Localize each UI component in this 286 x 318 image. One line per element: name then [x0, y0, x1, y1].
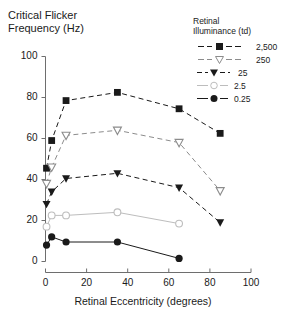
marker-filled-down-triangle — [175, 185, 183, 192]
marker-filled-square — [176, 105, 183, 112]
marker-open-circle — [63, 212, 70, 219]
series-025 — [43, 233, 183, 262]
x-axis-title: Retinal Eccentricity (degrees) — [0, 295, 286, 307]
marker-filled-circle — [48, 233, 55, 240]
marker-open-circle — [114, 209, 121, 216]
marker-filled-circle — [62, 238, 69, 245]
marker-open-circle — [43, 223, 50, 230]
marker-filled-down-triangle — [216, 219, 224, 226]
y-tick-label: 60 — [0, 132, 38, 143]
y-tick-label: 100 — [0, 50, 38, 61]
x-tick-label: 40 — [108, 277, 148, 288]
marker-open-down-triangle — [43, 180, 51, 187]
marker-filled-square — [48, 137, 55, 144]
axes-group — [42, 57, 252, 273]
x-tick-label: 0 — [26, 277, 66, 288]
marker-filled-circle — [43, 242, 50, 249]
series-line — [47, 130, 221, 191]
series-line — [47, 92, 221, 168]
marker-filled-square — [114, 89, 121, 96]
x-tick-label: 80 — [190, 277, 230, 288]
marker-filled-square — [217, 130, 224, 137]
series-250 — [43, 127, 225, 195]
x-tick-label: 60 — [149, 277, 189, 288]
y-tick-label: 80 — [0, 91, 38, 102]
series-25 — [43, 170, 225, 227]
marker-filled-circle — [114, 238, 121, 245]
marker-filled-square — [63, 97, 70, 104]
series-2500 — [43, 89, 223, 172]
marker-filled-down-triangle — [43, 201, 51, 208]
x-tick-label: 100 — [231, 277, 271, 288]
series-25 — [43, 209, 182, 230]
series-group — [43, 89, 225, 262]
y-tick-label: 20 — [0, 214, 38, 225]
plot-canvas — [0, 0, 286, 318]
marker-open-down-triangle — [216, 188, 224, 195]
x-tick-label: 20 — [67, 277, 107, 288]
chart-figure: Critical Flicker Frequency (Hz) Retinal … — [0, 0, 286, 318]
marker-filled-down-triangle — [48, 189, 56, 196]
marker-open-down-triangle — [62, 132, 70, 139]
marker-open-circle — [48, 212, 55, 219]
y-tick-label: 40 — [0, 173, 38, 184]
marker-open-circle — [176, 220, 183, 227]
marker-filled-circle — [175, 255, 182, 262]
y-tick-label: 0 — [0, 255, 38, 266]
